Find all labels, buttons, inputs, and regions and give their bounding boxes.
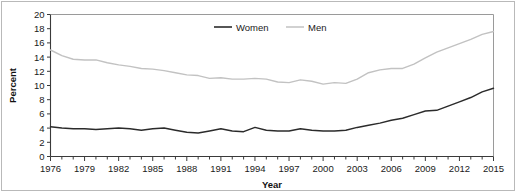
x-tick-label: 1997 bbox=[278, 163, 299, 174]
chart-generated-content: 0246810121416182019761979198219851988199… bbox=[7, 9, 504, 190]
x-tick-label: 2006 bbox=[381, 163, 402, 174]
x-tick-label: 1976 bbox=[40, 163, 61, 174]
y-tick-label: 18 bbox=[34, 23, 45, 34]
series-line-women bbox=[51, 88, 494, 133]
y-tick-label: 16 bbox=[34, 37, 45, 48]
x-tick-label: 2003 bbox=[347, 163, 368, 174]
x-tick-label: 1994 bbox=[244, 163, 265, 174]
y-axis-title: Percent bbox=[7, 67, 18, 103]
legend-label-women: Women bbox=[236, 22, 269, 33]
y-tick-label: 10 bbox=[34, 80, 45, 91]
x-tick-label: 1988 bbox=[176, 163, 197, 174]
x-axis-title: Year bbox=[262, 179, 282, 190]
x-tick-label: 2009 bbox=[415, 163, 436, 174]
y-tick-label: 12 bbox=[34, 66, 45, 77]
x-tick-label: 1985 bbox=[142, 163, 163, 174]
y-tick-label: 14 bbox=[34, 52, 45, 63]
y-tick-label: 4 bbox=[39, 123, 44, 134]
x-tick-label: 2000 bbox=[313, 163, 334, 174]
x-tick-label: 1982 bbox=[108, 163, 129, 174]
y-tick-label: 6 bbox=[39, 108, 44, 119]
chart-canvas: 0246810121416182019761979198219851988199… bbox=[0, 0, 518, 194]
line-chart: 0246810121416182019761979198219851988199… bbox=[0, 0, 518, 194]
legend-label-men: Men bbox=[308, 22, 326, 33]
y-tick-label: 8 bbox=[39, 94, 44, 105]
x-tick-label: 2015 bbox=[483, 163, 504, 174]
x-tick-label: 1979 bbox=[74, 163, 95, 174]
y-tick-label: 0 bbox=[39, 151, 44, 162]
series-line-men bbox=[51, 32, 494, 85]
x-tick-label: 1991 bbox=[210, 163, 231, 174]
y-tick-label: 20 bbox=[34, 9, 45, 20]
x-tick-label: 2012 bbox=[449, 163, 470, 174]
y-tick-label: 2 bbox=[39, 137, 44, 148]
